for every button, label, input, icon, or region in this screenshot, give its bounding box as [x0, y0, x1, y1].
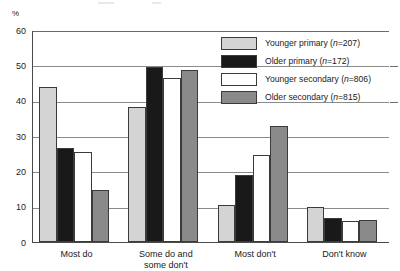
- scan-artifact: [98, 2, 114, 4]
- y-tick-label-40: 40: [4, 97, 26, 106]
- y-tick-label-10: 10: [4, 203, 26, 212]
- y-tick-label-50: 50: [4, 62, 26, 71]
- bar: [253, 155, 271, 242]
- legend-item: Older secondary (n=815): [221, 88, 393, 106]
- y-tick-label-60: 60: [4, 27, 26, 36]
- legend-swatch: [221, 73, 257, 86]
- x-axis-label: Don't know: [300, 249, 389, 260]
- bar: [92, 190, 110, 242]
- bar: [181, 70, 199, 242]
- bar: [218, 205, 236, 242]
- legend-swatch: [221, 37, 257, 50]
- y-tick-label-0: 0: [4, 239, 26, 248]
- y-tick-label-20: 20: [4, 168, 26, 177]
- bar: [235, 175, 253, 242]
- x-axis-label: Some do andsome don't: [121, 249, 210, 271]
- bar: [359, 220, 377, 242]
- legend-label: Younger secondary (n=806): [265, 74, 371, 84]
- bar: [307, 207, 325, 242]
- x-axis-label-line: Most do: [32, 249, 121, 260]
- y-axis-unit-label: %: [12, 9, 19, 19]
- x-axis-label-line: Most don't: [211, 249, 300, 260]
- x-axis-label: Most do: [32, 249, 121, 260]
- scan-artifact: [152, 2, 161, 4]
- legend-swatch: [221, 55, 257, 68]
- legend-item: Younger primary (n=207): [221, 34, 393, 52]
- x-axis-label-line: Some do and: [121, 249, 210, 260]
- x-axis-label-line: some don't: [121, 260, 210, 271]
- bar: [146, 67, 164, 242]
- bar: [163, 78, 181, 242]
- bar: [74, 152, 92, 242]
- x-axis-label-line: Don't know: [300, 249, 389, 260]
- legend-item: Younger secondary (n=806): [221, 70, 393, 88]
- bar-group: [33, 31, 122, 242]
- bar: [324, 218, 342, 242]
- legend-label: Older primary (n=172): [265, 56, 349, 66]
- bar: [39, 87, 57, 242]
- x-axis-label: Most don't: [211, 249, 300, 260]
- bar-chart: % 0102030405060 Most doSome do andsome d…: [0, 0, 400, 271]
- legend-item: Older primary (n=172): [221, 52, 393, 70]
- bar: [342, 221, 360, 242]
- bar-group: [122, 31, 211, 242]
- chart-legend: Younger primary (n=207)Older primary (n=…: [221, 34, 393, 106]
- legend-swatch: [221, 91, 257, 104]
- bar: [270, 126, 288, 242]
- y-tick-label-30: 30: [4, 133, 26, 142]
- bar: [128, 107, 146, 242]
- legend-label: Younger primary (n=207): [265, 38, 360, 48]
- bar: [57, 148, 75, 242]
- legend-label: Older secondary (n=815): [265, 92, 360, 102]
